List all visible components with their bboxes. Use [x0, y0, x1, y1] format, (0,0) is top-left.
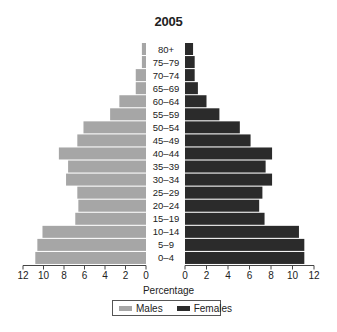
female-bar — [185, 134, 251, 146]
legend-label-males: Males — [136, 303, 163, 314]
male-bar — [136, 82, 146, 94]
tick-label: 10 — [38, 270, 50, 281]
male-bar — [37, 239, 146, 251]
age-group-labels: 80+75–7970–7465–6960–6455–5950–5445–4940… — [153, 44, 179, 264]
male-bar — [77, 187, 146, 199]
tick-label: 4 — [102, 270, 108, 281]
female-bars — [185, 43, 304, 264]
male-bar — [59, 147, 146, 159]
population-pyramid-chart: 80+75–7970–7465–6960–6455–5950–5445–4940… — [0, 0, 337, 332]
legend-item-females: Females — [177, 303, 232, 314]
female-bar — [185, 147, 272, 159]
female-bar — [185, 200, 259, 212]
age-group-label: 65–69 — [153, 83, 179, 94]
age-group-label: 50–54 — [153, 122, 179, 133]
female-bar — [185, 174, 272, 186]
male-bar — [35, 252, 146, 264]
age-group-label: 45–49 — [153, 135, 179, 146]
female-bar — [185, 56, 195, 68]
tick-label: 0 — [143, 270, 149, 281]
male-bar — [77, 134, 146, 146]
tick-label: 6 — [82, 270, 88, 281]
female-bar — [185, 108, 219, 120]
female-bar — [185, 121, 240, 133]
legend-item-males: Males — [119, 303, 163, 314]
age-group-label: 75–79 — [153, 57, 179, 68]
tick-label: 10 — [287, 270, 299, 281]
female-bar — [185, 252, 304, 264]
age-group-label: 15–19 — [153, 213, 179, 224]
females-swatch-icon — [177, 306, 190, 311]
female-bar — [185, 43, 193, 55]
male-bar — [83, 121, 146, 133]
x-axis-left: 121086420 — [17, 266, 149, 281]
age-group-label: 10–14 — [153, 226, 179, 237]
male-bar — [66, 174, 146, 186]
tick-label: 12 — [17, 270, 29, 281]
age-group-label: 0–4 — [158, 252, 174, 263]
tick-label: 2 — [204, 270, 210, 281]
tick-label: 6 — [247, 270, 253, 281]
female-bar — [185, 82, 198, 94]
male-bar — [136, 69, 146, 81]
males-swatch-icon — [119, 306, 132, 311]
tick-label: 0 — [182, 270, 188, 281]
age-group-label: 40–44 — [153, 148, 179, 159]
age-group-label: 70–74 — [153, 70, 179, 81]
female-bar — [185, 187, 262, 199]
male-bar — [142, 56, 146, 68]
tick-label: 4 — [225, 270, 231, 281]
x-axis-right: 024681012 — [182, 266, 320, 281]
male-bar — [78, 200, 146, 212]
female-bar — [185, 161, 266, 173]
male-bar — [42, 226, 146, 238]
age-group-label: 25–29 — [153, 187, 179, 198]
female-bar — [185, 213, 265, 225]
age-group-label: 35–39 — [153, 161, 179, 172]
male-bars — [35, 43, 146, 264]
tick-label: 12 — [308, 270, 320, 281]
age-group-label: 80+ — [158, 44, 175, 55]
female-bar — [185, 95, 207, 107]
age-group-label: 20–24 — [153, 200, 179, 211]
age-group-label: 5–9 — [158, 239, 174, 250]
age-group-label: 55–59 — [153, 109, 179, 120]
female-bar — [185, 69, 195, 81]
male-bar — [68, 161, 146, 173]
male-bar — [142, 43, 146, 55]
tick-label: 8 — [268, 270, 274, 281]
tick-label: 8 — [61, 270, 67, 281]
male-bar — [119, 95, 146, 107]
female-bar — [185, 226, 299, 238]
x-axis-label: Percentage — [0, 285, 337, 296]
age-group-label: 60–64 — [153, 96, 179, 107]
male-bar — [110, 108, 146, 120]
male-bar — [75, 213, 146, 225]
female-bar — [185, 239, 304, 251]
legend-label-females: Females — [194, 303, 232, 314]
tick-label: 2 — [123, 270, 129, 281]
legend: Males Females — [112, 300, 221, 316]
age-group-label: 30–34 — [153, 174, 179, 185]
